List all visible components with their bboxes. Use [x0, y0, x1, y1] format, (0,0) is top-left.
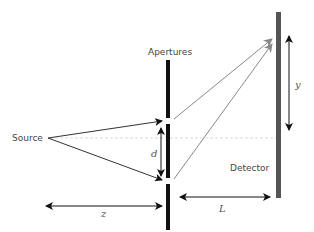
apertures-label: Apertures [148, 47, 192, 57]
source-ray-upper [48, 121, 162, 138]
barrier-bottom [166, 184, 170, 230]
aperture-barrier [166, 60, 170, 230]
detector-label: Detector [230, 163, 270, 173]
barrier-top [166, 60, 170, 118]
source-ray-lower [48, 138, 162, 180]
L-variable-label: L [218, 203, 226, 214]
z-variable-label: z [100, 208, 107, 219]
source-label: Source [12, 133, 43, 143]
y-variable-label: y [294, 79, 301, 90]
d-variable-label: d [151, 148, 157, 159]
double-slit-diagram: Source Apertures Detector d y z L [0, 0, 314, 232]
diffracted-ray-lower [174, 44, 272, 179]
detector-screen [276, 12, 281, 198]
barrier-middle [166, 124, 170, 178]
